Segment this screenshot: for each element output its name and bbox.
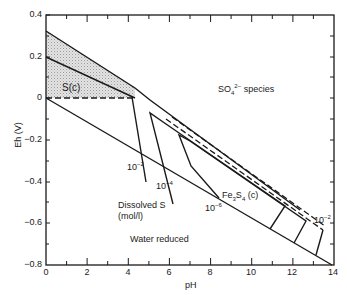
sc-region-label: S(c)	[62, 83, 80, 93]
so4-text: SO	[218, 84, 231, 94]
x-tick-label: 4	[118, 267, 138, 277]
c4-exp: −2	[324, 214, 331, 220]
y-tick-label: 0.4	[12, 9, 42, 19]
x-tick-label: 14	[323, 267, 343, 277]
fe3s4-region-label: Fe3S4 (c)	[222, 190, 258, 200]
x-tick-label: 2	[77, 267, 97, 277]
c1-exp: −2	[137, 161, 144, 167]
x-tick-label: 8	[200, 267, 220, 277]
x-tick-label: 6	[159, 267, 179, 277]
boundary-1e-6	[179, 135, 306, 243]
water-reduced-line	[46, 98, 332, 265]
c3-exp: −6	[215, 202, 222, 208]
c4-base: 10	[314, 215, 324, 225]
water-reduced-label: Water reduced	[130, 234, 189, 244]
sc-region	[46, 31, 135, 98]
x-tick-label: 12	[282, 267, 302, 277]
c2-base: 10	[156, 181, 166, 191]
so4-suffix: species	[241, 84, 274, 94]
y-tick-label: 0	[12, 92, 42, 102]
fe3s4-suffix: (c)	[245, 190, 258, 200]
so4-subscript: 4	[231, 90, 234, 96]
concentration-label-1e-2: 10−2	[127, 162, 144, 172]
c1-base: 10	[127, 162, 137, 172]
y-tick-label: −0.4	[12, 176, 42, 186]
y-tick-label: −0.6	[12, 217, 42, 227]
boundary-right-1e-2	[316, 230, 323, 255]
concentration-label-1e-4: 10−4	[156, 181, 173, 191]
concentration-label-right-1e-2: 10−2	[314, 215, 331, 225]
x-tick-label: 10	[241, 267, 261, 277]
so4-region-label: SO42− species	[218, 84, 274, 94]
y-tick-label: 0.2	[12, 51, 42, 61]
x-tick-label: 0	[36, 267, 56, 277]
fe-text: Fe	[222, 190, 233, 200]
concentration-label-1e-6: 10−6	[205, 203, 222, 213]
c2-exp: −4	[166, 180, 173, 186]
x-axis-title: pH	[185, 280, 197, 290]
dissolved-s-label: Dissolved S	[118, 200, 166, 210]
mol-per-liter-label: (mol/l)	[118, 211, 143, 221]
c3-base: 10	[205, 203, 215, 213]
y-axis-title: Eh (V)	[13, 122, 23, 148]
eh-ph-diagram	[0, 0, 347, 295]
